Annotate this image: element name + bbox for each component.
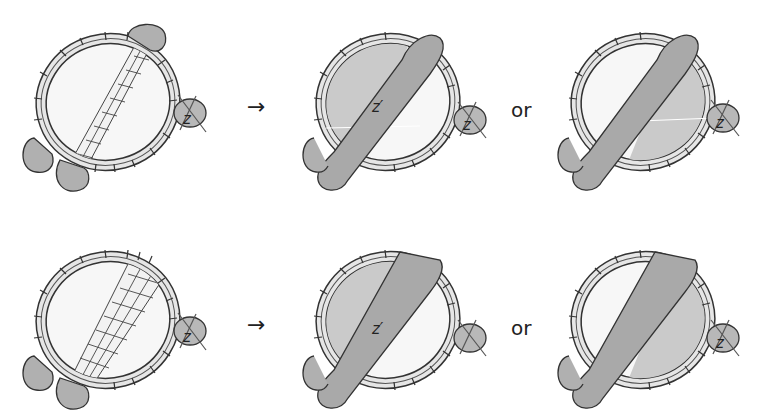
band-label-z-prime: z′ bbox=[371, 320, 384, 338]
arrow-row2: → bbox=[247, 312, 265, 337]
or-separator-row1: or bbox=[511, 98, 531, 122]
curve-label-z: z bbox=[462, 116, 472, 134]
band-label-z-prime: z′ bbox=[371, 98, 384, 116]
arrow-row1: → bbox=[247, 94, 265, 119]
diagram-row1-after-1: z z′ bbox=[300, 20, 500, 195]
curve-label-z: z bbox=[715, 334, 725, 352]
curve-label-z: z bbox=[182, 328, 192, 346]
diagram-row2-before: z bbox=[20, 238, 220, 413]
diagram-row2-after-2: z bbox=[555, 238, 755, 413]
curve-label-z: z bbox=[182, 110, 192, 128]
or-separator-row2: or bbox=[511, 316, 531, 340]
curve-label-z: z bbox=[715, 114, 725, 132]
diagram-row1-after-2: z bbox=[555, 20, 755, 195]
diagram-row1-before: z bbox=[20, 20, 220, 195]
diagram-row2-after-1: z′ bbox=[300, 238, 500, 413]
